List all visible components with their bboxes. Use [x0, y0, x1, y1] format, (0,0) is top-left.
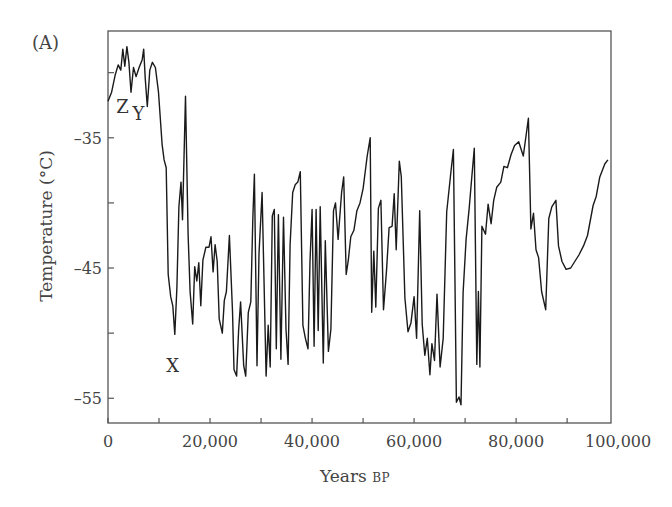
- annotation-y: Y: [133, 103, 145, 124]
- x-tick-label: 60,000: [386, 432, 442, 451]
- x-axis-label-text: Years: [320, 466, 367, 486]
- annotation-x: X: [166, 355, 179, 376]
- x-tick-label: 20,000: [182, 432, 238, 451]
- x-tick-label: 80,000: [488, 432, 544, 451]
- y-axis-label: Temperature (°C): [36, 150, 56, 302]
- x-axis-label: Years BP: [320, 466, 390, 486]
- x-tick-label: 0: [103, 432, 113, 451]
- temperature-chart: 020,00040,00060,00080,000100,000 –35–45–…: [0, 0, 672, 507]
- annotation-z: Z: [116, 96, 129, 117]
- y-tick-label: –45: [74, 259, 102, 278]
- x-tick-label: 100,000: [585, 432, 651, 451]
- y-tick-label: –35: [74, 129, 102, 148]
- panel-label: (A): [32, 32, 59, 53]
- plot-frame: [108, 31, 611, 423]
- y-tick-label: –55: [74, 389, 102, 408]
- x-tick-label: 40,000: [284, 432, 340, 451]
- temperature-series-line: [108, 47, 608, 405]
- x-axis-label-unit: BP: [372, 471, 390, 485]
